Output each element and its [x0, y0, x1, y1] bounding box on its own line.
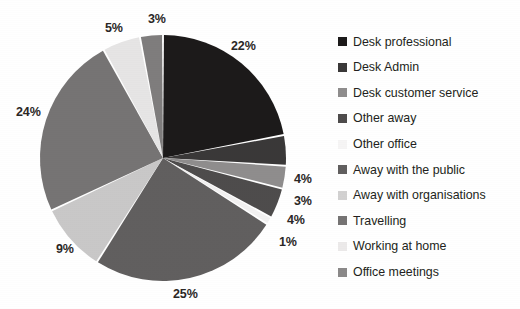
- legend-swatch-icon: [338, 268, 347, 277]
- legend-item[interactable]: Desk Admin: [338, 55, 518, 81]
- pie-percent-label: 1%: [279, 236, 297, 249]
- pie-slice-group: [40, 35, 286, 281]
- pie-plot-area: 22%4%3%4%1%25%9%24%5%3%: [0, 0, 320, 309]
- pie-chart-figure: 22%4%3%4%1%25%9%24%5%3% Desk professiona…: [0, 0, 520, 309]
- legend-item[interactable]: Other away: [338, 106, 518, 132]
- legend-item-label: Desk professional: [353, 36, 451, 48]
- pie-percent-label: 9%: [56, 243, 74, 256]
- legend-swatch-icon: [338, 37, 347, 46]
- legend-item[interactable]: Working at home: [338, 234, 518, 260]
- legend-swatch-icon: [338, 216, 347, 225]
- legend-item-label: Office meetings: [353, 266, 439, 278]
- legend-swatch-icon: [338, 191, 347, 200]
- pie-percent-label: 3%: [148, 13, 166, 26]
- legend-swatch-icon: [338, 114, 347, 123]
- legend-swatch-icon: [338, 140, 347, 149]
- pie-percent-label: 5%: [105, 22, 123, 35]
- legend-swatch-icon: [338, 88, 347, 97]
- legend-item-label: Working at home: [353, 240, 446, 252]
- legend-item[interactable]: Travelling: [338, 208, 518, 234]
- chart-legend: Desk professionalDesk AdminDesk customer…: [338, 29, 518, 285]
- legend-item-label: Desk customer service: [353, 87, 478, 99]
- legend-item[interactable]: Away with the public: [338, 157, 518, 183]
- legend-swatch-icon: [338, 63, 347, 72]
- legend-item-label: Other away: [353, 112, 416, 124]
- legend-item[interactable]: Office meetings: [338, 259, 518, 285]
- legend-item-label: Travelling: [353, 215, 406, 227]
- legend-item[interactable]: Desk professional: [338, 29, 518, 55]
- legend-item-label: Away with the public: [353, 164, 465, 176]
- legend-item[interactable]: Other office: [338, 131, 518, 157]
- legend-item-label: Desk Admin: [353, 61, 419, 73]
- legend-item[interactable]: Away with organisations: [338, 183, 518, 209]
- pie-percent-label: 4%: [294, 173, 312, 186]
- pie-percent-label: 22%: [231, 40, 256, 53]
- pie-percent-label: 3%: [294, 195, 312, 208]
- pie-percent-label: 4%: [287, 214, 305, 227]
- legend-swatch-icon: [338, 242, 347, 251]
- legend-item[interactable]: Desk customer service: [338, 80, 518, 106]
- legend-swatch-icon: [338, 165, 347, 174]
- pie-percent-label: 25%: [173, 288, 198, 301]
- legend-item-label: Other office: [353, 138, 417, 150]
- legend-item-label: Away with organisations: [353, 189, 486, 201]
- pie-svg: [0, 0, 320, 309]
- pie-percent-label: 24%: [16, 106, 41, 119]
